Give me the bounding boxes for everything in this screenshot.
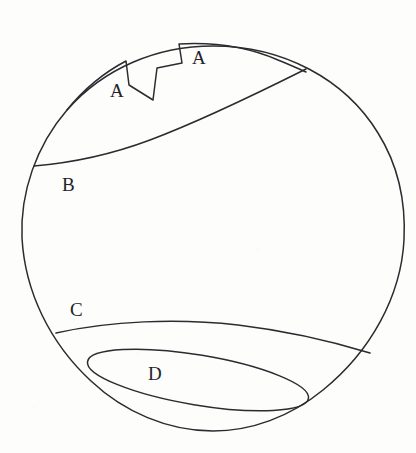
arc-b-path bbox=[34, 69, 306, 166]
label-c: C bbox=[70, 300, 83, 319]
arc-c-path bbox=[56, 321, 370, 353]
ellipse-d-group bbox=[83, 337, 312, 423]
label-d: D bbox=[148, 364, 162, 383]
outer-circle-path bbox=[22, 46, 404, 431]
sphere-diagram bbox=[0, 0, 416, 453]
label-a-right: A bbox=[192, 48, 206, 67]
ellipse-d-path bbox=[83, 337, 312, 423]
label-b: B bbox=[62, 175, 75, 194]
figure-canvas: A A B C D bbox=[0, 0, 416, 453]
label-a-left: A bbox=[110, 81, 124, 100]
